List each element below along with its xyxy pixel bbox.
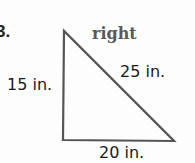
- diagram: 3. right 25 in. 15 in. 20 in.: [0, 0, 195, 163]
- triangle-classification: right: [92, 24, 137, 43]
- hypotenuse-label: 25 in.: [120, 62, 165, 81]
- bottom-side-label: 20 in.: [99, 143, 144, 162]
- left-side-label: 15 in.: [7, 75, 52, 94]
